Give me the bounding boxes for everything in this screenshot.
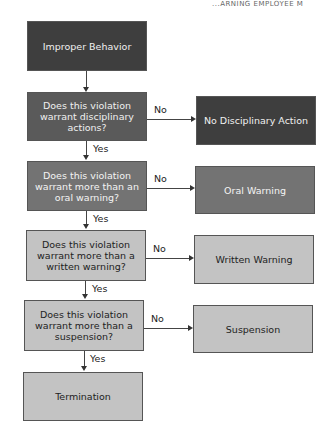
no-label: No <box>153 243 166 254</box>
connector-arrow <box>144 328 188 329</box>
no-label: No <box>154 173 167 184</box>
outcome-box-4: Suspension <box>193 305 313 353</box>
start-box: Improper Behavior <box>27 21 147 71</box>
outcome-box-2: Oral Warning <box>195 166 315 214</box>
arrow-down-icon <box>82 294 88 299</box>
connector-arrow <box>86 71 87 88</box>
arrow-down-icon <box>83 224 89 229</box>
arrow-down-icon <box>83 155 89 160</box>
connector-arrow <box>85 281 86 295</box>
question-box-1: Does this violation warrant disciplinary… <box>27 92 147 141</box>
outcome-box-1: No Disciplinary Action <box>196 96 316 145</box>
page-header-fragment: ...ARNING EMPLOYEE M <box>212 0 303 8</box>
yes-label: Yes <box>92 283 107 294</box>
question-box-2: Does this violation warrant more than an… <box>27 161 147 211</box>
termination-box: Termination <box>23 372 143 421</box>
yes-label: Yes <box>93 143 108 154</box>
connector-arrow <box>146 258 189 259</box>
connector-arrow <box>84 351 85 367</box>
connector-arrow <box>86 211 87 225</box>
no-label: No <box>151 313 164 324</box>
arrow-down-icon <box>81 366 87 371</box>
connector-arrow <box>86 141 87 156</box>
outcome-box-3: Written Warning <box>194 235 314 284</box>
connector-arrow <box>147 119 191 120</box>
question-box-3: Does this violation warrant more than a … <box>26 230 146 281</box>
connector-arrow <box>147 188 190 189</box>
yes-label: Yes <box>90 353 105 364</box>
question-box-4: Does this violation warrant more than a … <box>24 300 144 351</box>
no-label: No <box>154 104 167 115</box>
yes-label: Yes <box>93 213 108 224</box>
